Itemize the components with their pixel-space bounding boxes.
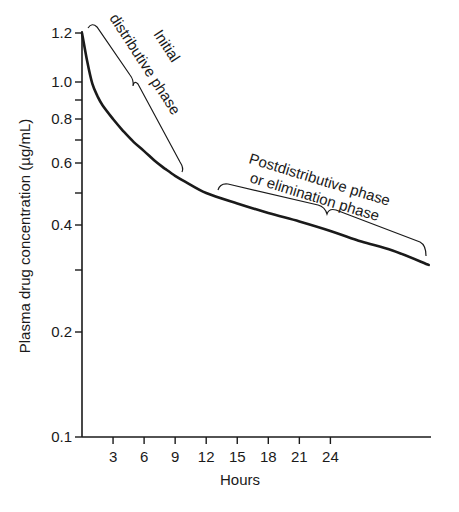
y-tick-label: 1.2 bbox=[51, 24, 72, 41]
x-tick-label: 21 bbox=[291, 448, 308, 465]
y-tick-label: 0.1 bbox=[51, 428, 72, 445]
pharmacokinetic-chart: 1.21.00.80.60.40.20.1 3691215182124 Init… bbox=[0, 0, 459, 512]
y-tick-label: 0.6 bbox=[51, 154, 72, 171]
x-tick-label: 15 bbox=[229, 448, 246, 465]
x-tick-label: 3 bbox=[109, 448, 117, 465]
x-tick-label: 18 bbox=[260, 448, 277, 465]
y-axis-title: Plasma drug concentration (µg/mL) bbox=[16, 119, 33, 354]
x-axis-title: Hours bbox=[220, 471, 260, 488]
x-tick-label: 12 bbox=[198, 448, 215, 465]
initial-phase-label-line1: Initial bbox=[150, 26, 183, 65]
y-tick-label: 0.8 bbox=[51, 110, 72, 127]
x-tick-label: 24 bbox=[322, 448, 339, 465]
y-tick-label: 0.2 bbox=[51, 323, 72, 340]
x-tick-label: 6 bbox=[140, 448, 148, 465]
initial-phase-label-line2: distributive phase bbox=[106, 10, 184, 117]
x-axis: 3691215182124 bbox=[82, 437, 431, 465]
y-axis: 1.21.00.80.60.40.20.1 bbox=[51, 24, 82, 445]
y-tick-label: 1.0 bbox=[51, 73, 72, 90]
x-tick-label: 9 bbox=[171, 448, 179, 465]
concentration-curve bbox=[82, 33, 429, 265]
y-tick-label: 0.4 bbox=[51, 216, 72, 233]
